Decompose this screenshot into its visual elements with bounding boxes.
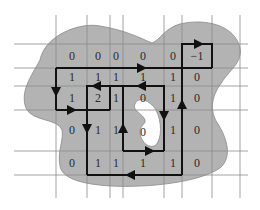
cell-value: 1 [69,91,75,105]
cell-value: 1 [113,156,119,170]
cell-value: −1 [191,49,204,63]
cell-value: 0 [69,49,75,63]
cell-value: 1 [113,123,119,137]
cell-value: 2 [95,91,101,105]
cell-value: 0 [113,49,119,63]
cell-value: 0 [95,49,101,63]
cell-value: 1 [113,70,119,84]
cell-value: 1 [170,91,176,105]
cell-value: 1 [95,156,101,170]
cell-value: 0 [69,123,75,137]
cell-value: 1 [69,70,75,84]
winding-number-diagram: 0 0 0 0 0 −1 1 1 1 1 1 0 1 2 1 0 1 0 0 1… [0,0,260,210]
cell-value: 0 [140,91,146,105]
cell-value: 1 [95,123,101,137]
cell-value: 1 [95,70,101,84]
cell-value: 1 [170,156,176,170]
cell-value: 0 [194,91,200,105]
cell-value: 0 [140,125,146,139]
cell-value: 0 [140,49,146,63]
cell-value: 0 [69,156,75,170]
cell-value: 1 [113,91,119,105]
cell-value: 1 [170,70,176,84]
cell-value: 0 [170,49,176,63]
cell-value: 1 [140,156,146,170]
cell-value: 0 [194,156,200,170]
cell-value: 1 [140,70,146,84]
cell-value: 0 [194,70,200,84]
cell-value: 0 [194,123,200,137]
cell-value: 1 [170,123,176,137]
